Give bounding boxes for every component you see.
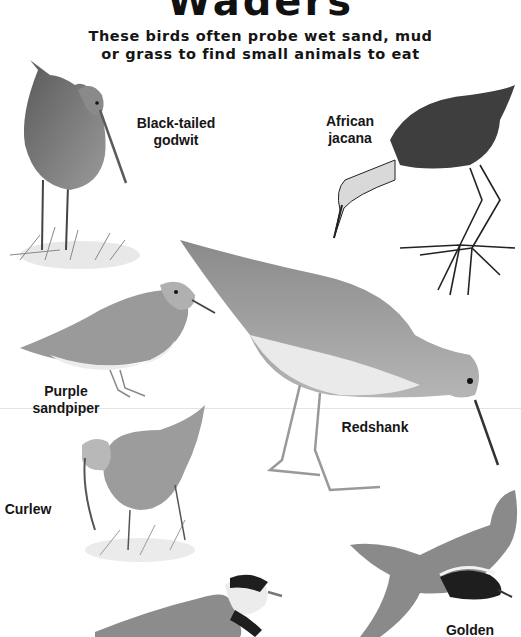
golden-plover-illustration bbox=[340, 485, 521, 637]
redshank-label: Redshank bbox=[335, 419, 415, 436]
jacana-label: African jacana bbox=[315, 113, 385, 147]
godwit-illustration bbox=[0, 55, 140, 275]
godwit-label: Black-tailed godwit bbox=[128, 115, 224, 149]
golden-plover-label: Golden bbox=[440, 622, 500, 637]
page-title: Waders bbox=[0, 0, 521, 24]
curlew-label: Curlew bbox=[0, 501, 56, 518]
plover-illustration bbox=[90, 570, 290, 637]
redshank-illustration bbox=[170, 235, 510, 505]
curlew-illustration bbox=[60, 400, 220, 575]
subtitle-line-1: These birds often probe wet sand, mud bbox=[0, 27, 521, 45]
